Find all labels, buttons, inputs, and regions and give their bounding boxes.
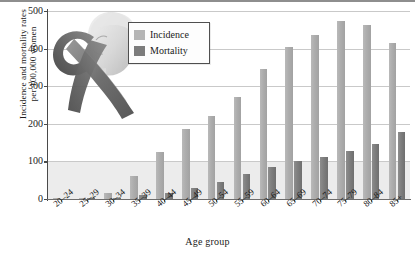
mortality-swatch-icon (134, 46, 145, 56)
y-tick-label-0: 0 (13, 194, 43, 204)
gridline-500 (48, 11, 410, 12)
bar-incidence-80-84 (363, 25, 371, 199)
y-axis-title-line1: Incidence and mortality rates (18, 9, 28, 119)
bar-incidence-65-69 (285, 47, 293, 199)
legend-item-mortality: Mortality (134, 43, 204, 59)
gridline-100 (48, 161, 410, 162)
chart-figure: Incidence and mortality rates per 100,00… (0, 0, 415, 253)
y-axis-title-line2: per 100,000 women (28, 27, 38, 102)
x-axis-line (47, 199, 411, 200)
legend-item-incidence: Incidence (134, 27, 204, 43)
plot-area (48, 11, 410, 199)
x-axis-title: Age group (0, 236, 415, 247)
bar-incidence-50-54 (208, 116, 216, 199)
gridline-300 (48, 86, 410, 87)
bar-incidence-85+ (389, 43, 397, 199)
legend-label-incidence: Incidence (150, 30, 189, 40)
figure-top-rule (0, 0, 415, 2)
bar-incidence-60-64 (260, 69, 268, 199)
bar-incidence-70-74 (311, 35, 319, 199)
chart-legend: Incidence Mortality (128, 22, 210, 64)
bar-incidence-55-59 (234, 97, 242, 199)
bar-incidence-40-44 (156, 152, 164, 199)
bar-mortality-85+ (398, 132, 406, 199)
y-tick-label-100: 100 (13, 156, 43, 166)
gridline-200 (48, 124, 410, 125)
legend-label-mortality: Mortality (150, 46, 188, 56)
gridline-400 (48, 49, 410, 50)
y-axis-title: Incidence and mortality rates per 100,00… (14, 0, 42, 154)
bar-incidence-45-49 (182, 129, 190, 199)
incidence-swatch-icon (134, 30, 145, 40)
bar-incidence-75-79 (337, 21, 345, 199)
